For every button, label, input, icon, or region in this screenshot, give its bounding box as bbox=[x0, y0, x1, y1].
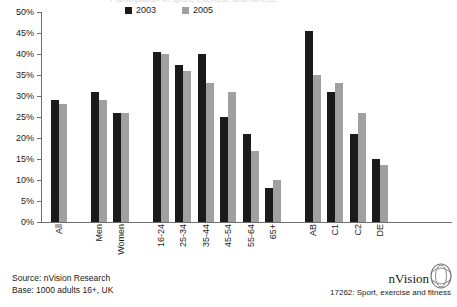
bar-2005 bbox=[273, 180, 281, 222]
bar-group bbox=[324, 12, 347, 222]
bar-2005 bbox=[161, 54, 169, 222]
y-tick-label: 5% bbox=[0, 197, 34, 206]
y-tick-label: 30% bbox=[0, 92, 34, 101]
category-label: 55-64 bbox=[247, 224, 256, 247]
bar-group bbox=[240, 12, 263, 222]
y-tick-mark bbox=[37, 12, 41, 13]
bar-series-container bbox=[42, 12, 451, 222]
y-tick-label: 50% bbox=[0, 8, 34, 17]
y-tick-mark bbox=[37, 96, 41, 97]
footer-source-block: Source: nVision Research Base: 1000 adul… bbox=[12, 272, 113, 296]
y-tick-label: 35% bbox=[0, 71, 34, 80]
bar-2003 bbox=[305, 31, 313, 222]
bar-2003 bbox=[265, 188, 273, 222]
x-axis-category-labels: AllMenWomen16-2425-3435-4445-5455-6465+A… bbox=[42, 224, 452, 272]
bar-2003 bbox=[113, 113, 121, 222]
category-label: AB bbox=[309, 224, 318, 236]
bar-group bbox=[172, 12, 195, 222]
bar-group bbox=[302, 12, 325, 222]
bar-2005 bbox=[59, 104, 67, 222]
bar-group bbox=[48, 12, 71, 222]
bar-group bbox=[369, 12, 392, 222]
bar-2005 bbox=[380, 165, 388, 222]
y-tick-mark bbox=[37, 33, 41, 34]
footer-source: Source: nVision Research bbox=[12, 272, 113, 284]
category-label: C1 bbox=[331, 224, 340, 236]
y-tick-mark bbox=[37, 201, 41, 202]
bar-2005 bbox=[121, 113, 129, 222]
chart-page: Participation in sport, exercise and fit… bbox=[0, 0, 457, 307]
nvision-eye-logo-icon bbox=[429, 263, 453, 289]
bar-2003 bbox=[243, 134, 251, 222]
bar-group bbox=[110, 12, 133, 222]
y-tick-mark bbox=[37, 54, 41, 55]
y-tick-mark bbox=[37, 75, 41, 76]
category-label: All bbox=[55, 224, 64, 234]
bar-group bbox=[217, 12, 240, 222]
category-label: Women bbox=[117, 224, 126, 255]
category-label: 16-24 bbox=[157, 224, 166, 247]
y-tick-label: 10% bbox=[0, 176, 34, 185]
category-label: 65+ bbox=[269, 224, 278, 239]
footer-base: Base: 1000 adults 16+, UK bbox=[12, 284, 113, 296]
bar-2005 bbox=[228, 92, 236, 222]
y-tick-label: 45% bbox=[0, 29, 34, 38]
bar-group bbox=[88, 12, 111, 222]
bar-2003 bbox=[220, 117, 228, 222]
footer-reference: 17262: Sport, exercise and fitness bbox=[330, 288, 451, 298]
bar-2003 bbox=[372, 159, 380, 222]
bar-2003 bbox=[153, 52, 161, 222]
bar-2003 bbox=[350, 134, 358, 222]
category-label: Men bbox=[95, 224, 104, 242]
bar-2005 bbox=[183, 71, 191, 222]
y-tick-mark bbox=[37, 159, 41, 160]
chart-title-text: Participation in sport, exercise and fit… bbox=[110, 0, 410, 4]
y-tick-mark bbox=[37, 180, 41, 181]
category-label: DE bbox=[376, 224, 385, 237]
category-label: 35-44 bbox=[202, 224, 211, 247]
bar-2005 bbox=[99, 100, 107, 222]
bar-group bbox=[195, 12, 218, 222]
y-tick-label: 15% bbox=[0, 155, 34, 164]
bar-2003 bbox=[175, 65, 183, 223]
y-tick-mark bbox=[37, 222, 41, 223]
bar-2003 bbox=[91, 92, 99, 222]
y-tick-mark bbox=[37, 138, 41, 139]
bar-2003 bbox=[327, 92, 335, 222]
bar-2003 bbox=[51, 100, 59, 222]
y-tick-mark bbox=[37, 117, 41, 118]
category-label: 45-54 bbox=[224, 224, 233, 247]
y-tick-label: 25% bbox=[0, 113, 34, 122]
bar-2005 bbox=[335, 83, 343, 222]
bar-2005 bbox=[358, 113, 366, 222]
category-label: C2 bbox=[354, 224, 363, 236]
y-tick-label: 0% bbox=[0, 218, 34, 227]
brand-wordmark: nVision bbox=[389, 272, 429, 285]
bar-2005 bbox=[251, 151, 259, 222]
category-label: 25-34 bbox=[179, 224, 188, 247]
bar-2005 bbox=[313, 75, 321, 222]
bar-group bbox=[262, 12, 285, 222]
bar-2003 bbox=[198, 54, 206, 222]
bar-group bbox=[347, 12, 370, 222]
plot-area: 0%5%10%15%20%25%30%35%40%45%50% bbox=[41, 12, 451, 222]
bar-group bbox=[150, 12, 173, 222]
x-axis-line bbox=[41, 222, 452, 223]
bar-2005 bbox=[206, 83, 214, 222]
y-tick-label: 40% bbox=[0, 50, 34, 59]
y-tick-label: 20% bbox=[0, 134, 34, 143]
